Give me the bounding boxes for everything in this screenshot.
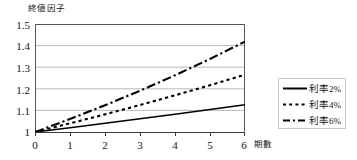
legend-label-rate-6-pct: 6% [329, 116, 341, 126]
finance-chart-figure: 終値因子 1.5 1.4 1.3 1.2 1.1 1 [0, 0, 357, 160]
y-tick-label-1-4: 1.4 [4, 41, 30, 52]
y-axis-title: 終値因子 [28, 1, 65, 13]
legend: 利率2% 利率4% 利率6% [278, 78, 346, 129]
legend-label-rate-2-text: 利率 [309, 83, 329, 94]
x-tick-label-2: 2 [96, 140, 114, 151]
series-line-rate-2 [35, 105, 245, 132]
x-axis-title: 期數 [254, 137, 273, 149]
x-tick-label-1: 1 [61, 140, 79, 151]
x-tick-label-0: 0 [26, 140, 44, 151]
y-tick-label-1-3: 1.3 [4, 63, 30, 74]
x-axis [35, 132, 247, 138]
x-tick-label-3: 3 [131, 140, 149, 151]
plot-border [36, 25, 245, 132]
legend-item-rate-2: 利率2% [282, 81, 344, 96]
legend-swatch-dash-dot-icon [282, 113, 308, 128]
y-tick-label-1-5: 1.5 [4, 20, 30, 31]
x-tick-label-6: 6 [235, 140, 253, 151]
y-tick-label-1: 1 [4, 127, 30, 138]
legend-swatch-solid-icon [282, 81, 308, 96]
legend-item-rate-4: 利率4% [282, 97, 344, 112]
legend-label-rate-6-text: 利率 [309, 115, 329, 126]
y-tick-label-1-1: 1.1 [4, 106, 30, 117]
x-tick-label-5: 5 [201, 140, 219, 151]
series-line-rate-4 [35, 75, 245, 132]
y-tick-label-1-2: 1.2 [4, 85, 30, 96]
plot-area [35, 24, 245, 132]
legend-swatch-dotted-icon [282, 97, 308, 112]
legend-item-rate-6: 利率6% [282, 113, 344, 128]
legend-label-rate-2: 利率2% [309, 83, 341, 95]
gridlines [35, 46, 245, 111]
legend-label-rate-2-pct: 2% [329, 84, 341, 94]
x-tick-label-4: 4 [166, 140, 184, 151]
legend-label-rate-6: 利率6% [309, 115, 341, 127]
legend-label-rate-4-pct: 4% [329, 100, 341, 110]
legend-label-rate-4: 利率4% [309, 99, 341, 111]
plot-canvas [35, 24, 245, 132]
legend-label-rate-4-text: 利率 [309, 99, 329, 110]
